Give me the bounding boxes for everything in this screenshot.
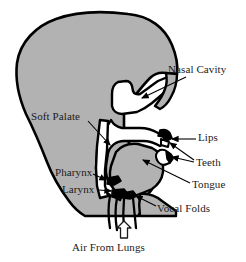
label-teeth: Teeth xyxy=(196,157,221,168)
tongue-shape xyxy=(110,144,163,196)
lower-lip-teeth-group xyxy=(156,150,173,165)
vocal-tract-diagram: Nasal Cavity Soft Palate Lips Teeth Phar… xyxy=(0,0,246,262)
air-flow-up-arrow-icon xyxy=(117,221,131,238)
label-air-from-lungs: Air From Lungs xyxy=(72,242,145,253)
tongue-group xyxy=(110,144,163,196)
label-tongue: Tongue xyxy=(192,179,225,190)
label-nasal-cavity: Nasal Cavity xyxy=(168,64,226,75)
label-larynx: Larynx xyxy=(62,184,94,195)
label-soft-palate: Soft Palate xyxy=(31,111,80,122)
label-pharynx: Pharynx xyxy=(55,167,92,178)
label-lips: Lips xyxy=(198,132,218,143)
label-vocal-folds: Vocal Folds xyxy=(157,203,210,214)
air-flow-arrow-group xyxy=(117,221,131,238)
